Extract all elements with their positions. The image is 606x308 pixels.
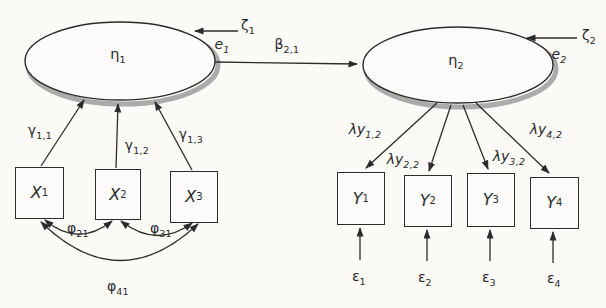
sem-path-diagram: η1 η2 ζ1 e1 ζ2 e2 β2,1 γ1,1 γ1,2 γ1,3 φ2… bbox=[0, 0, 606, 308]
lambda-symbol: λy bbox=[493, 148, 510, 164]
lambda-y4-label: λy4,2 bbox=[530, 121, 563, 139]
gamma-subscript: 1,2 bbox=[133, 145, 149, 156]
phi-41-label: φ41 bbox=[107, 278, 129, 296]
x2-subscript: 2 bbox=[120, 190, 127, 200]
indicator-x2-box: X2 bbox=[95, 169, 141, 220]
x3-symbol: X bbox=[185, 189, 196, 205]
indicator-y1-box: Y1 bbox=[337, 172, 385, 225]
eta2-subscript: 2 bbox=[457, 60, 463, 71]
phi-subscript: 21 bbox=[76, 228, 89, 239]
indicator-y4-box: Y4 bbox=[530, 177, 579, 229]
epsilon-symbol: ε bbox=[547, 270, 555, 286]
gamma-subscript: 1,3 bbox=[187, 134, 203, 145]
lambda-symbol: λy bbox=[349, 121, 366, 137]
latent-eta1-label: η1 bbox=[110, 46, 126, 64]
zeta1-label: ζ1 bbox=[241, 17, 255, 35]
lambda-y2-arrow bbox=[429, 105, 451, 171]
lambda-subscript: 1,2 bbox=[365, 129, 381, 140]
epsilon3-label: ε3 bbox=[482, 269, 496, 287]
y2-subscript: 2 bbox=[430, 196, 437, 206]
lambda-subscript: 3,2 bbox=[509, 156, 525, 167]
gamma-1-2-arrow bbox=[116, 104, 118, 168]
x3-subscript: 3 bbox=[196, 192, 203, 202]
zeta2-label: ζ2 bbox=[582, 27, 596, 45]
phi-41-covariance-arc bbox=[41, 222, 198, 261]
zeta2-symbol: ζ bbox=[582, 27, 590, 43]
latent-eta2-label: η2 bbox=[448, 52, 464, 70]
gamma-subscript: 1,1 bbox=[36, 130, 52, 141]
epsilon4-label: ε4 bbox=[547, 270, 561, 288]
phi-21-label: φ21 bbox=[67, 220, 89, 238]
beta-subscript: 2,1 bbox=[283, 44, 299, 55]
epsilon-symbol: ε bbox=[482, 269, 490, 285]
x2-symbol: X bbox=[109, 187, 120, 203]
zeta2-subscript: 2 bbox=[590, 35, 596, 46]
indicator-x3-box: X3 bbox=[170, 171, 218, 223]
zeta1-symbol: ζ bbox=[241, 17, 249, 33]
zeta1-subscript: 1 bbox=[249, 25, 255, 36]
lambda-subscript: 4,2 bbox=[546, 129, 562, 140]
beta-path-arrow bbox=[215, 62, 357, 64]
epsilon-subscript: 3 bbox=[490, 277, 496, 288]
phi-31-label: φ31 bbox=[150, 220, 172, 238]
indicator-x1-box: X1 bbox=[15, 167, 64, 219]
phi-symbol: φ bbox=[150, 220, 159, 236]
lambda-subscript: 2,2 bbox=[403, 159, 419, 170]
e1-subscript: 1 bbox=[223, 44, 229, 55]
y4-symbol: Y bbox=[546, 195, 556, 211]
gamma-1-2-label: γ1,2 bbox=[125, 137, 149, 155]
y4-subscript: 4 bbox=[556, 198, 563, 208]
phi-symbol: φ bbox=[107, 278, 116, 294]
epsilon-symbol: ε bbox=[352, 268, 360, 284]
e2-subscript: 2 bbox=[560, 54, 566, 65]
epsilon-subscript: 4 bbox=[555, 278, 561, 289]
epsilon-subscript: 2 bbox=[426, 277, 432, 288]
x1-symbol: X bbox=[31, 185, 42, 201]
x1-subscript: 1 bbox=[42, 188, 49, 198]
lambda-symbol: λy bbox=[530, 121, 547, 137]
y3-subscript: 3 bbox=[493, 195, 500, 205]
y1-subscript: 1 bbox=[363, 194, 370, 204]
gamma-1-3-label: γ1,3 bbox=[179, 126, 203, 144]
y1-symbol: Y bbox=[353, 191, 363, 207]
epsilon2-label: ε2 bbox=[418, 269, 432, 287]
y2-symbol: Y bbox=[420, 193, 430, 209]
eta2-symbol: η bbox=[448, 52, 457, 68]
epsilon1-label: ε1 bbox=[352, 268, 366, 286]
phi-symbol: φ bbox=[67, 220, 76, 236]
indicator-y3-box: Y3 bbox=[467, 173, 515, 227]
lambda-y3-arrow bbox=[463, 105, 488, 169]
lambda-symbol: λy bbox=[387, 151, 404, 167]
beta-coefficient-label: β2,1 bbox=[275, 36, 300, 54]
lambda-y2-label: λy2,2 bbox=[387, 151, 420, 169]
indicator-y2-box: Y2 bbox=[404, 175, 452, 227]
epsilon-symbol: ε bbox=[418, 269, 426, 285]
e1-label: e1 bbox=[215, 36, 230, 54]
eta1-subscript: 1 bbox=[119, 54, 125, 65]
y3-symbol: Y bbox=[483, 192, 493, 208]
epsilon-subscript: 1 bbox=[360, 276, 366, 287]
e1-symbol: e bbox=[215, 36, 224, 52]
e2-symbol: e bbox=[552, 46, 561, 62]
beta-symbol: β bbox=[275, 36, 284, 52]
phi-subscript: 31 bbox=[159, 228, 172, 239]
lambda-y3-label: λy3,2 bbox=[493, 148, 526, 166]
gamma-1-1-label: γ1,1 bbox=[28, 122, 52, 140]
lambda-y1-label: λy1,2 bbox=[349, 121, 382, 139]
phi-subscript: 41 bbox=[116, 286, 129, 297]
e2-label: e2 bbox=[552, 46, 567, 64]
eta1-symbol: η bbox=[110, 46, 119, 62]
